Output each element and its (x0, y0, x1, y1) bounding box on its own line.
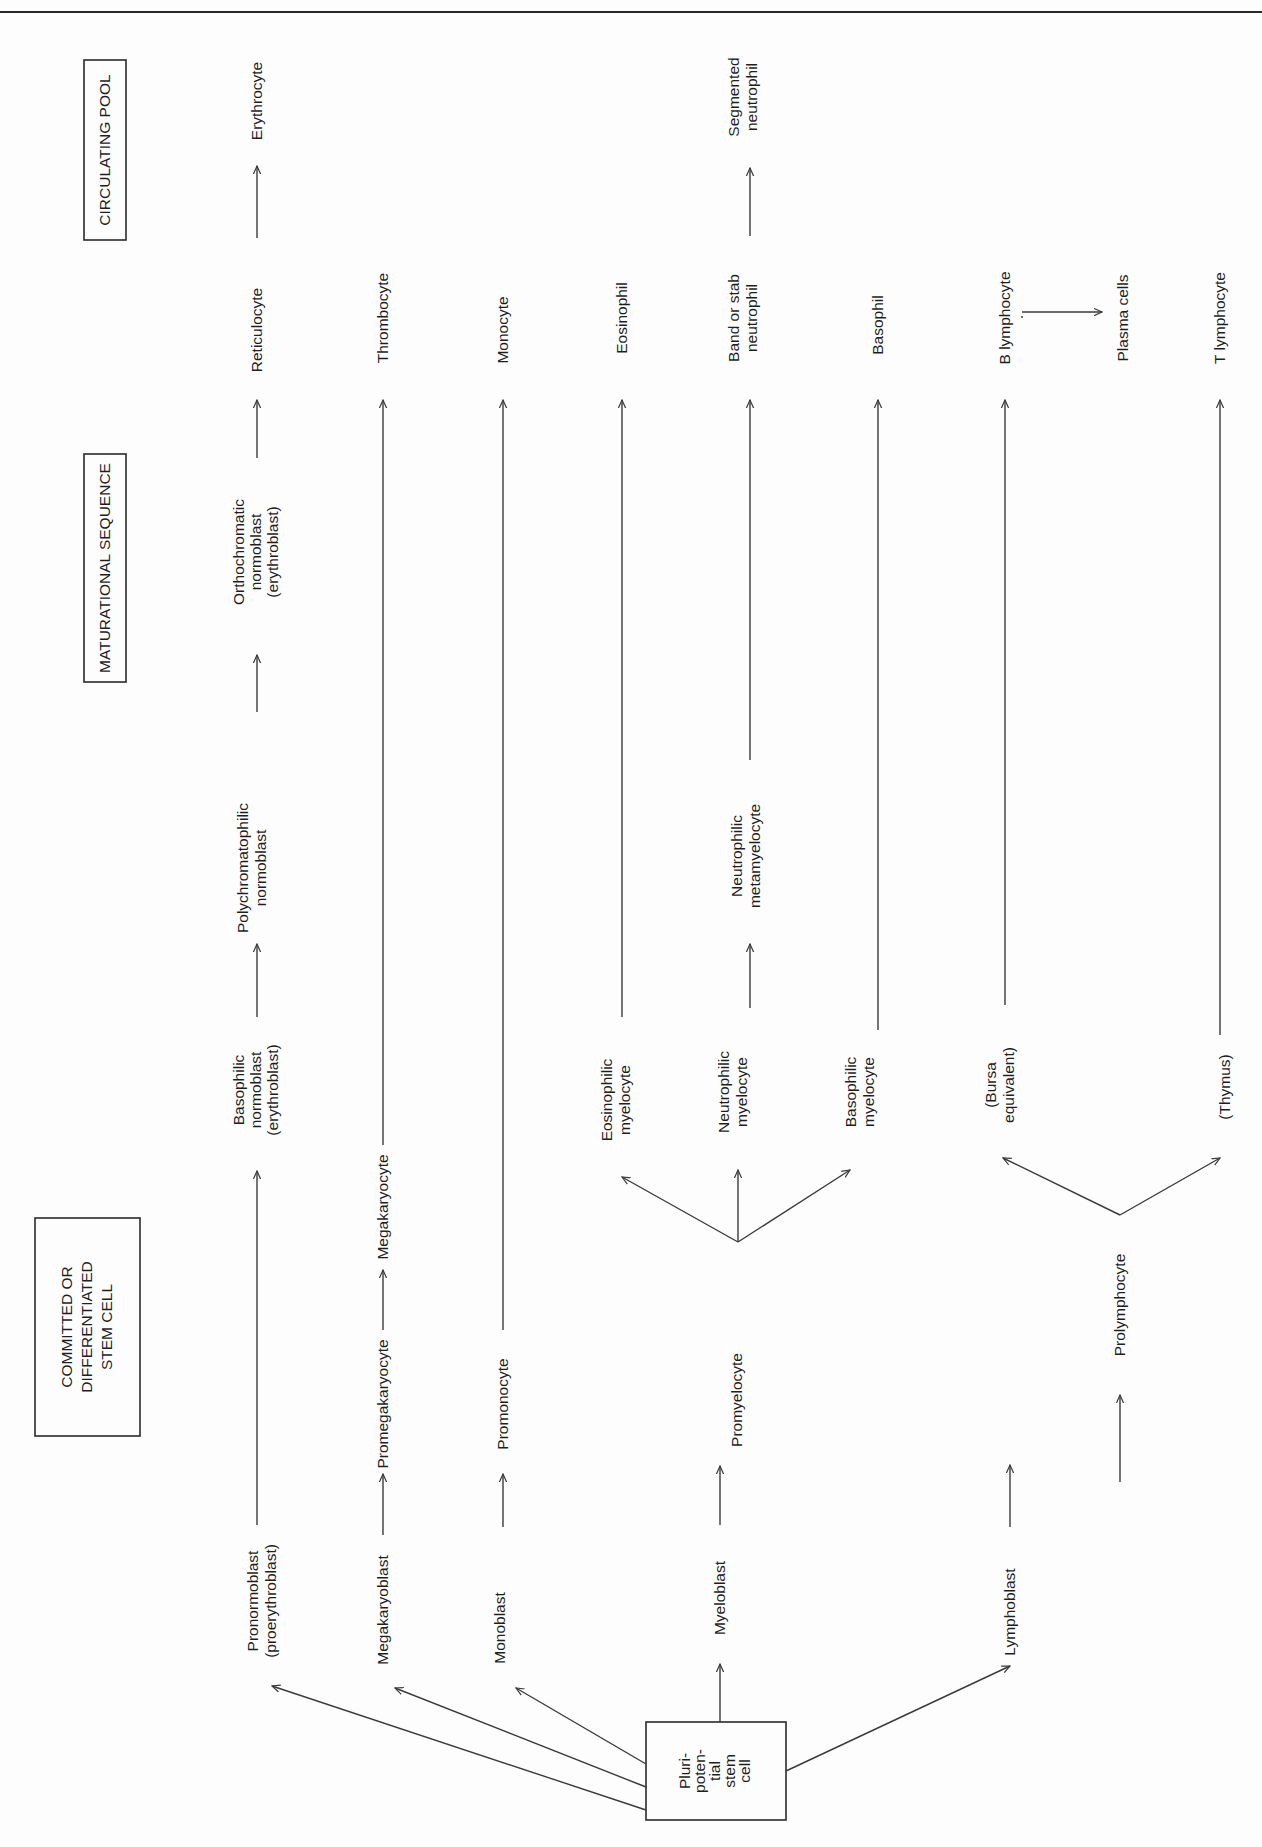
arrow-prolymphocyte-bursa (1003, 1158, 1120, 1215)
node-erythrocyte: Erythrocyte (248, 62, 265, 140)
header-text: STEM CELL (98, 1284, 115, 1371)
node-eosinophil: Eosinophil (613, 282, 630, 354)
node-polychromatophilic-normoblast: Polychromatophilic normoblast (234, 803, 269, 933)
node-label: Pronormoblast (244, 1550, 261, 1651)
header-committed-stem-cell: COMMITTED OR DIFFERENTIATED STEM CELL (35, 1218, 140, 1436)
node-label: normoblast (247, 513, 264, 590)
node-segmented-neutrophil: Segmented neutrophil (725, 57, 760, 136)
pluripotential-stem-cell: Pluri- poten- tial stem cell (646, 1722, 786, 1820)
node-label: T lymphocyte (1211, 272, 1228, 364)
node-label: neutrophil (743, 284, 760, 352)
header-text: DIFFERENTIATED (78, 1261, 95, 1392)
header-maturational-sequence: MATURATIONAL SEQUENCE (84, 454, 126, 682)
node-basophilic-myelocyte: Basophilic myelocyte (842, 1056, 877, 1127)
node-label: neutrophil (743, 63, 760, 131)
arrow-promyelocyte-basophilic-myelocyte (738, 1170, 850, 1242)
node-label: Eosinophil (613, 282, 630, 354)
node-label: Neutrophilic (715, 1051, 732, 1133)
node-label: normoblast (247, 1051, 264, 1128)
node-myeloblast: Myeloblast (711, 1560, 728, 1635)
node-bursa-equivalent: (Bursa equivalent) (982, 1047, 1017, 1123)
node-pronormoblast: Pronormoblast (proerythroblast) (244, 1544, 279, 1658)
node-label: Myeloblast (711, 1560, 728, 1635)
node-thrombocyte: Thrombocyte (374, 273, 391, 363)
node-label: Prolymphocyte (1111, 1254, 1128, 1357)
stem-cell-arrows (272, 1664, 1010, 1810)
node-label: Polychromatophilic (234, 803, 251, 933)
node-basophil: Basophil (869, 295, 886, 354)
arrow-to-megakaryoblast (395, 1688, 646, 1787)
node-label: Basophil (869, 295, 886, 354)
node-label: Megakaryocyte (374, 1154, 391, 1259)
node-label: Thrombocyte (374, 273, 391, 363)
lineage-monocytic: Monoblast Promonocyte Monocyte (491, 296, 511, 1663)
node-prolymphocyte: Prolymphocyte (1111, 1254, 1128, 1357)
node-label: Basophilic (230, 1054, 247, 1125)
node-neutrophilic-metamyelocyte: Neutrophilic metamyelocyte (728, 804, 763, 908)
node-megakaryocyte: Megakaryocyte (374, 1154, 391, 1259)
node-label: Promegakaryocyte (374, 1339, 391, 1468)
node-label: Reticulocyte (248, 288, 265, 372)
node-label: Megakaryoblast (374, 1555, 391, 1665)
hematopoiesis-diagram: COMMITTED OR DIFFERENTIATED STEM CELL MA… (0, 0, 1262, 1847)
stem-cell-label: cell (736, 1759, 753, 1782)
node-plasma-cells: Plasma cells (1114, 274, 1131, 361)
node-reticulocyte: Reticulocyte (248, 288, 265, 372)
node-promonocyte: Promonocyte (494, 1358, 511, 1449)
node-neutrophilic-myelocyte: Neutrophilic myelocyte (715, 1051, 750, 1133)
node-label: Monoblast (491, 1592, 508, 1664)
arrow-to-lymphoblast (786, 1666, 1010, 1771)
node-label: (proerythroblast) (262, 1544, 279, 1658)
arrow-promyelocyte-eosinophilic-myelocyte (622, 1177, 738, 1242)
node-band-neutrophil: Band or stab neutrophil (725, 274, 760, 362)
header-circulating-pool: CIRCULATING POOL (84, 60, 126, 240)
node-label: Eosinophilic (598, 1058, 615, 1141)
node-label: normoblast (252, 829, 269, 906)
node-label: myelocyte (860, 1057, 877, 1127)
node-monoblast: Monoblast (491, 1592, 508, 1664)
arrow-to-monoblast (516, 1688, 646, 1764)
node-monocyte: Monocyte (494, 296, 511, 363)
node-megakaryoblast: Megakaryoblast (374, 1555, 391, 1665)
node-promegakaryocyte: Promegakaryocyte (374, 1339, 391, 1468)
arrow-prolymphocyte-thymus (1120, 1158, 1220, 1215)
lineage-erythroid: Pronormoblast (proerythroblast) Basophil… (230, 62, 281, 1658)
node-thymus: (Thymus) (1216, 1054, 1233, 1119)
node-label: (Thymus) (1216, 1054, 1233, 1119)
node-label: myelocyte (733, 1057, 750, 1127)
node-label: Plasma cells (1114, 274, 1131, 361)
node-promyelocyte: Promyelocyte (728, 1353, 745, 1447)
node-label: myelocyte (616, 1065, 633, 1135)
node-eosinophilic-myelocyte: Eosinophilic myelocyte (598, 1058, 633, 1141)
node-label: Basophilic (842, 1056, 859, 1127)
node-label: (erythroblast) (264, 1044, 281, 1135)
node-label: Promyelocyte (728, 1353, 745, 1447)
node-b-lymphocyte: B lymphocyte (996, 271, 1013, 364)
node-label: Monocyte (494, 296, 511, 363)
node-basophilic-normoblast: Basophilic normoblast (erythroblast) (230, 1044, 281, 1135)
node-label: (Bursa (982, 1062, 999, 1108)
lineage-megakaryocytic: Megakaryoblast Promegakaryocyte Megakary… (374, 273, 391, 1665)
header-text: COMMITTED OR (58, 1266, 75, 1387)
node-label: Neutrophilic (728, 815, 745, 897)
node-label: Erythrocyte (248, 62, 265, 140)
diagram-svg: COMMITTED OR DIFFERENTIATED STEM CELL MA… (0, 0, 1262, 1847)
arrow-to-pronormoblast (272, 1686, 646, 1810)
node-label: Promonocyte (494, 1358, 511, 1449)
node-label: equivalent) (1000, 1047, 1017, 1123)
lineage-granulocytic: Myeloblast Promyelocyte Eosinophilic mye… (598, 57, 886, 1635)
node-label: Segmented (725, 57, 742, 136)
node-label: B lymphocyte (996, 271, 1013, 364)
node-orthochromatic-normoblast: Orthochromatic normoblast (erythroblast) (230, 499, 281, 605)
lineage-lymphoid: Lymphoblast Prolymphocyte (Bursa equival… (982, 271, 1233, 1655)
node-label: Band or stab (725, 274, 742, 362)
node-label: (erythroblast) (264, 506, 281, 597)
node-label: Lymphoblast (1001, 1568, 1018, 1656)
node-label: Orthochromatic (230, 499, 247, 605)
node-lymphoblast: Lymphoblast (1001, 1568, 1018, 1656)
header-text: CIRCULATING POOL (96, 74, 113, 226)
node-label: metamyelocyte (746, 804, 763, 908)
node-t-lymphocyte: T lymphocyte (1211, 272, 1228, 364)
header-text: MATURATIONAL SEQUENCE (96, 463, 113, 673)
